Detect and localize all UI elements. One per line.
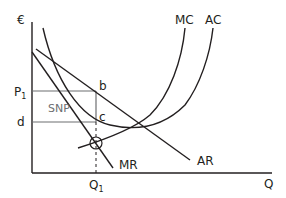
mc-label: MC	[175, 13, 194, 27]
price-p1-label: P1	[14, 85, 26, 101]
cost-d-label: d	[17, 115, 25, 129]
point-c-label: c	[99, 110, 106, 124]
monopoly-diagram: € Q P1 d Q1 b c SNP MC AC AR MR	[0, 0, 286, 198]
quantity-q1-label: Q1	[89, 178, 104, 194]
ar-label: AR	[197, 154, 214, 168]
mr-label: MR	[119, 158, 138, 172]
point-b-label: b	[99, 79, 107, 93]
ac-label: AC	[205, 13, 221, 27]
snp-area-label: SNP	[48, 102, 70, 115]
y-axis-label: €	[17, 13, 25, 27]
mc-curve	[78, 28, 185, 148]
x-axis-label: Q	[264, 177, 273, 191]
